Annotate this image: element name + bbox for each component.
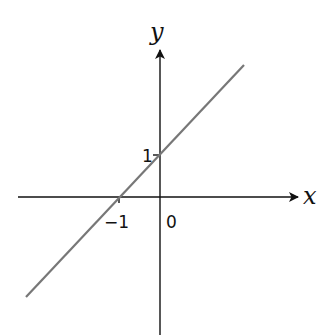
y-tick-label-1: 1 bbox=[142, 146, 153, 166]
data-line bbox=[26, 65, 244, 297]
y-axis-label: y bbox=[149, 18, 164, 46]
x-tick-label-neg1: −1 bbox=[104, 212, 129, 232]
chart-canvas: y x −1 0 1 bbox=[0, 0, 329, 335]
x-axis-label: x bbox=[303, 182, 317, 210]
origin-label: 0 bbox=[166, 212, 177, 232]
